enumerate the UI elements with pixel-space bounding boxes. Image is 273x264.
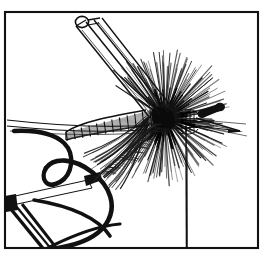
fly-tying-illustration-canvas: Fly tying step illustration: [0, 0, 273, 264]
illustration-figure: Fly tying step illustration: [0, 0, 273, 264]
